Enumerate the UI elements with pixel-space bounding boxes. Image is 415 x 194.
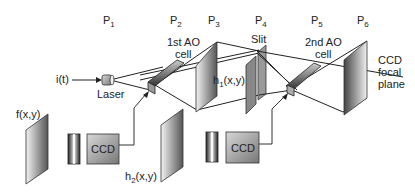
laser-label: Laser [97,88,125,100]
plane-label-p6: P6 [357,14,369,29]
ccd-camera-2-label: CCD [231,142,255,154]
ccd-camera-1-label: CCD [91,143,115,155]
slit-label: Slit [251,33,266,45]
input-signal-label: i(t) [56,73,69,85]
ccd1-to-ao1-wire [119,94,146,145]
ao-cell-2 [286,63,321,89]
plane-label-p3: P3 [208,14,220,29]
slit-plate-front [246,56,256,114]
input-arrowhead-icon [96,77,102,83]
ccd-focal-plane-label-line3: plane [378,78,405,90]
ao-cell-1 [148,60,184,86]
input-function-plate [26,114,48,184]
plane-label-p4: P4 [255,14,267,29]
ao-cell-2-label-line2: cell [315,48,332,60]
ao-cell-2-label-line1: 2nd AO [305,36,342,48]
ray [292,90,343,112]
input-function-label: f(x,y) [16,108,40,120]
ccd2-to-ao2-wire [259,96,285,144]
optical-diagram: P1 P2 P3 P4 P5 P6 1st AO cell Slit 2nd A… [0,0,415,194]
h2-filter-plate [161,109,183,182]
plane-label-p1: P1 [103,14,115,29]
ray [155,85,197,110]
plane-label-p2: P2 [170,14,182,29]
ao-cell-1-label-line1: 1st AO [167,36,200,48]
ccd-focal-plane [344,41,367,115]
ao-cell-1-label-line2: cell [175,48,192,60]
plane-label-p5: P5 [311,14,323,29]
ccd2-wire-arrowhead-icon [282,93,288,100]
h2-label: h2(x,y) [125,170,157,185]
laser-aperture [110,75,114,85]
ccd-focal-plane-label-line1: CCD [378,54,402,66]
h1-label: h1(x,y) [213,74,245,89]
